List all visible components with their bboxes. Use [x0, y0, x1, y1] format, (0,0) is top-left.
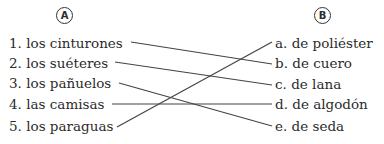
connector-5-a — [117, 42, 272, 127]
connector-2-c — [115, 62, 272, 85]
connector-lines — [0, 0, 384, 144]
